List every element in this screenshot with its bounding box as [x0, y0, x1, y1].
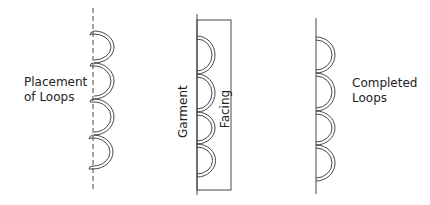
completed-label: Completed Loops	[352, 76, 417, 106]
completed-loop	[316, 111, 335, 145]
completed-label-line2: Loops	[352, 91, 417, 106]
placement-label-line1: Placement	[24, 75, 87, 90]
placement-loop	[90, 31, 114, 63]
completed-loop	[316, 73, 335, 111]
garment-label: Garment	[176, 88, 190, 138]
placement-label: Placement of Loops	[24, 75, 87, 105]
facing-label: Facing	[218, 86, 232, 132]
placement-label-line2: of Loops	[24, 90, 87, 105]
placement-loop	[90, 63, 114, 99]
completed-label-line1: Completed	[352, 76, 417, 91]
facing-loop	[197, 144, 216, 177]
completed-loop	[316, 145, 335, 181]
completed-loop	[316, 37, 335, 73]
completed-panel	[316, 18, 335, 194]
placement-panel	[89, 8, 114, 192]
facing-loop	[197, 36, 215, 74]
placement-loop	[90, 99, 114, 135]
facing-loop	[197, 112, 215, 144]
facing-loop	[197, 74, 215, 112]
